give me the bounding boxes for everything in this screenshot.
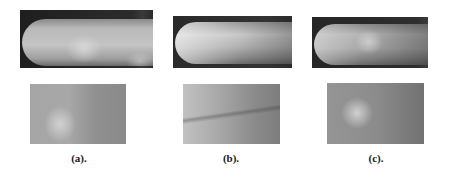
finger-image-b [173,16,292,68]
roi-image-a [30,84,126,144]
finger-shape-c [314,24,428,65]
caption-b: (b). [201,152,261,164]
finger-image-c [312,17,428,68]
roi-image-b [183,84,280,144]
finger-image-a [20,10,153,68]
caption-c: (c). [346,152,406,164]
finger-shape-b [175,22,292,64]
finger-shape-a [22,19,153,66]
roi-image-c [327,83,424,144]
caption-a: (a). [49,152,109,164]
